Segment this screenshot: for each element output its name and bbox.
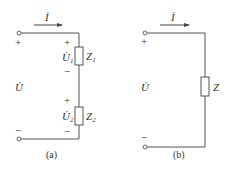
impedance-z (201, 77, 209, 96)
source-minus-a: − (15, 124, 21, 136)
source-plus-a: + (15, 36, 21, 48)
terminal-bottom-a (17, 137, 21, 141)
z1-plus: + (64, 36, 70, 48)
current-label-b: İ (170, 11, 176, 23)
z1-voltage: U̇1 (62, 51, 73, 65)
source-minus-b: − (141, 131, 147, 143)
terminal-top-a (17, 31, 21, 35)
z1-label: Z1 (86, 50, 96, 64)
z2-plus: + (64, 94, 70, 106)
impedance-z2 (75, 107, 83, 125)
source-voltage-b: U̇ (141, 81, 150, 93)
source-plus-b: + (141, 35, 147, 47)
caption-b: (b) (173, 149, 185, 161)
z2-minus: − (64, 125, 70, 137)
z2-voltage: U̇2 (62, 110, 74, 124)
z1-minus: − (64, 65, 70, 77)
caption-a: (a) (46, 149, 57, 161)
source-voltage-a: U̇ (15, 81, 24, 93)
z2-label: Z2 (86, 110, 96, 124)
terminal-bottom-b (143, 145, 147, 149)
circuit-a: İ + U̇ − + U̇1 − Z1 + U̇2 − Z2 (a) (15, 11, 96, 161)
circuit-b: İ + U̇ − Z (b) (141, 11, 220, 161)
current-label-a: İ (44, 11, 50, 23)
circuit-diagrams: İ + U̇ − + U̇1 − Z1 + U̇2 − Z2 (a) İ + U… (0, 0, 227, 171)
impedance-z1 (75, 47, 83, 65)
wire-b (147, 33, 205, 147)
z-label: Z (213, 81, 220, 93)
